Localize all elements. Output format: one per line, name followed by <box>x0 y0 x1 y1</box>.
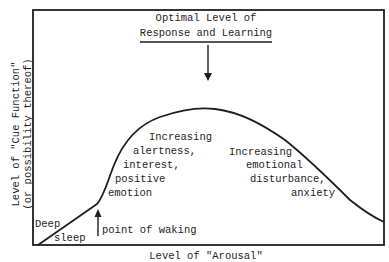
y-axis-label-line-2: (or possibility thereof) <box>22 34 34 234</box>
right-region-line-2: emotional <box>246 159 303 171</box>
up-arrow-icon <box>95 209 102 236</box>
title-line-2: Response and Learning <box>106 27 306 39</box>
left-region-line-1: Increasing <box>149 131 212 143</box>
x-axis-label: Level of "Arousal" <box>106 250 306 262</box>
y-axis-label-line-1: Level of "Cue Function" <box>10 34 22 234</box>
right-region-line-4: anxiety <box>291 187 335 199</box>
right-region-line-1: Increasing <box>229 146 292 158</box>
sleep-label: sleep <box>54 232 86 244</box>
right-region-line-3: disturbance, <box>250 173 326 185</box>
left-region-line-2: alertness, <box>133 145 196 157</box>
arousal-curve <box>38 108 384 245</box>
title-line-1: Optimal Level of <box>106 12 306 24</box>
left-region-line-5: emotion <box>108 187 152 199</box>
point-of-waking-label: point of waking <box>102 224 197 236</box>
left-region-line-4: positive <box>115 173 165 185</box>
left-region-line-3: interest, <box>123 159 180 171</box>
down-arrow-icon <box>204 45 212 81</box>
deep-label: Deep <box>35 218 60 230</box>
